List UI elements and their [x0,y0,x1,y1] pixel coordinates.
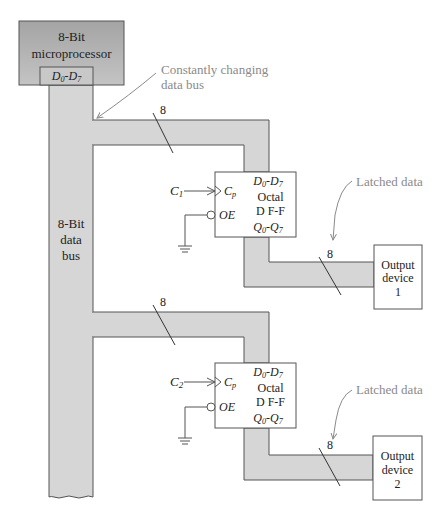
ff2-oe-label: OE [219,401,235,413]
callout-arrow-latched-2 [333,390,352,439]
ff2-cp-label: Cp [224,376,236,388]
lower-branch-bus [93,312,269,363]
upper-branch-bus [93,120,269,172]
output-device-2-line1: Output [373,450,422,462]
callout-latched-data-2: Latched data [356,383,423,396]
ff1-q-label: Q0-Q7 [240,221,296,233]
oe-bubble-2 [207,403,215,411]
clock-input-label-1: C1 [170,184,183,197]
callout-arrow-latched-1 [333,181,352,240]
output-device-2-line3: 2 [373,478,422,490]
callout-constantly-changing-line2: data bus [161,78,204,91]
output-device-1-line2: device [374,272,422,284]
upper-output-bus [244,237,374,287]
oe-ground-wire-2 [185,407,207,438]
output-device-2-line2: device [373,464,422,476]
callout-constantly-changing-line1: Constantly changing [161,63,268,76]
bus-width-lower-in: 8 [160,296,166,308]
microprocessor-label-line2: microprocessor [19,47,124,60]
ground-icon-1 [178,246,192,252]
ff2-q-label: Q0-Q7 [240,412,296,424]
main-data-bus [49,85,93,498]
clock-input-label-2: C2 [170,375,183,388]
ff1-d-label: D0-D7 [240,175,296,187]
output-device-1-line3: 1 [374,286,422,298]
microprocessor-label-line1: 8-Bit [19,30,124,43]
ff1-cp-label: Cp [224,185,236,197]
ff1-title-line2: D F-F [245,205,296,217]
ground-icon-2 [178,438,192,444]
data-bus-label-line1: 8-Bit [49,217,93,230]
bus-width-upper-out: 8 [327,248,333,260]
oe-ground-wire-1 [185,215,207,246]
data-bus-label-line2: data [49,233,93,246]
callout-latched-data-1: Latched data [356,175,423,188]
ff2-title-line1: Octal [245,382,296,394]
bus-width-upper-in: 8 [160,104,166,116]
ff2-title-line2: D F-F [245,396,296,408]
data-bus-label-line3: bus [49,249,93,262]
ff2-d-label: D0-D7 [240,366,296,378]
ff1-title-line1: Octal [245,191,296,203]
microprocessor-port-label: D0-D7 [40,70,93,82]
ff1-oe-label: OE [219,209,235,221]
output-device-1-line1: Output [374,259,422,271]
oe-bubble-1 [207,211,215,219]
bus-width-lower-out: 8 [327,439,333,451]
lower-output-bus [244,428,373,480]
